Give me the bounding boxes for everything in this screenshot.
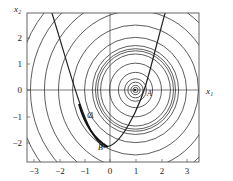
- y-tick-labels: 2 1 0 −1 −2: [12, 33, 22, 148]
- contour-circles: [0, 0, 233, 181]
- x-tick-label: 3: [185, 166, 190, 176]
- y-tick-label: 0: [18, 85, 23, 95]
- x-tick-label: −2: [55, 166, 65, 176]
- point-b-label: B: [98, 143, 103, 152]
- point-a-label: A: [146, 89, 152, 98]
- point-c-label: C: [87, 111, 93, 120]
- y-tick-label: 2: [18, 33, 23, 43]
- x-tick-labels: −3 −2 −1 0 1 2 3: [29, 166, 190, 176]
- solution-path: [79, 104, 108, 147]
- contour-plot: −3 −2 −1 0 1 2 3 2 1 0 −1 −2 x₂ x₁ A C B: [0, 0, 233, 181]
- x-tick-label: 1: [134, 166, 139, 176]
- x-tick-label: 2: [160, 166, 165, 176]
- x-tick-label: −1: [80, 166, 90, 176]
- y-tick-label: −2: [12, 138, 22, 148]
- y-axis-label: x₂: [13, 4, 21, 14]
- contour-circle: [30, 0, 233, 181]
- plot-area: [0, 0, 233, 181]
- x-tick-label: 0: [108, 166, 113, 176]
- point-a-marker: [134, 89, 136, 91]
- x-axis-label: x₁: [205, 86, 213, 96]
- y-tick-label: −1: [12, 112, 22, 122]
- x-tick-label: −3: [29, 166, 39, 176]
- y-tick-label: 1: [18, 59, 23, 69]
